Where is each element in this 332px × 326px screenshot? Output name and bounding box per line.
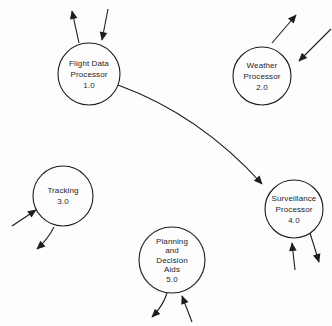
node-tracking: Tracking3.0 [33, 166, 93, 226]
node-label-surveillance-processor-line3: 4.0 [288, 216, 300, 225]
node-label-flight-data-processor-line1: Flight Data [69, 59, 109, 68]
node-label-tracking-line1: Tracking [47, 186, 78, 195]
node-label-surveillance-processor-line1: Surveillance [272, 194, 317, 203]
node-label-tracking-line2: 3.0 [57, 197, 69, 206]
node-label-planning-decision-aids-line1: Planning [156, 237, 188, 246]
dfd-figure: Flight DataProcessor1.0WeatherProcessor2… [0, 0, 332, 326]
node-label-planning-decision-aids-line3: Decision [156, 256, 187, 265]
node-label-surveillance-processor-line2: Processor [276, 205, 313, 214]
node-label-planning-decision-aids-line4: Aids [164, 265, 180, 274]
node-planning-decision-aids: PlanningandDecisionAids5.0 [139, 227, 205, 293]
node-surveillance-processor: SurveillanceProcessor4.0 [265, 180, 323, 238]
node-label-weather-processor-line2: Processor [244, 72, 281, 81]
node-label-planning-decision-aids-line2: and [165, 246, 179, 255]
node-flight-data-processor: Flight DataProcessor1.0 [58, 43, 120, 105]
node-label-weather-processor-line1: Weather [247, 61, 278, 70]
node-label-flight-data-processor-line2: Processor [71, 70, 108, 79]
node-circle-tracking [33, 166, 93, 226]
node-weather-processor: WeatherProcessor2.0 [233, 47, 291, 105]
node-label-weather-processor-line3: 2.0 [256, 83, 268, 92]
dfd-canvas: Flight DataProcessor1.0WeatherProcessor2… [0, 0, 332, 326]
node-label-planning-decision-aids-line5: 5.0 [166, 275, 178, 284]
node-label-flight-data-processor-line3: 1.0 [83, 81, 95, 90]
